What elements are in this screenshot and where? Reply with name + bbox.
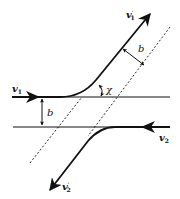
particle-1-trajectory — [12, 14, 150, 97]
label-impact-parameter-vertical: b — [47, 107, 53, 118]
scattering-diagram: v1 v′1 v2 v′2 b b χ — [0, 0, 180, 199]
label-impact-parameter-oblique: b — [138, 43, 144, 54]
label-scattering-angle: χ — [105, 84, 113, 95]
label-v1-outgoing: v′1 — [126, 9, 135, 21]
dashed-line-left — [30, 97, 82, 163]
dashed-line-right — [88, 27, 170, 136]
label-v2-incoming: v2 — [159, 132, 169, 144]
scattering-angle-arc — [99, 85, 102, 96]
label-v2-outgoing: v′2 — [62, 181, 71, 193]
label-v1-incoming: v1 — [12, 83, 22, 95]
